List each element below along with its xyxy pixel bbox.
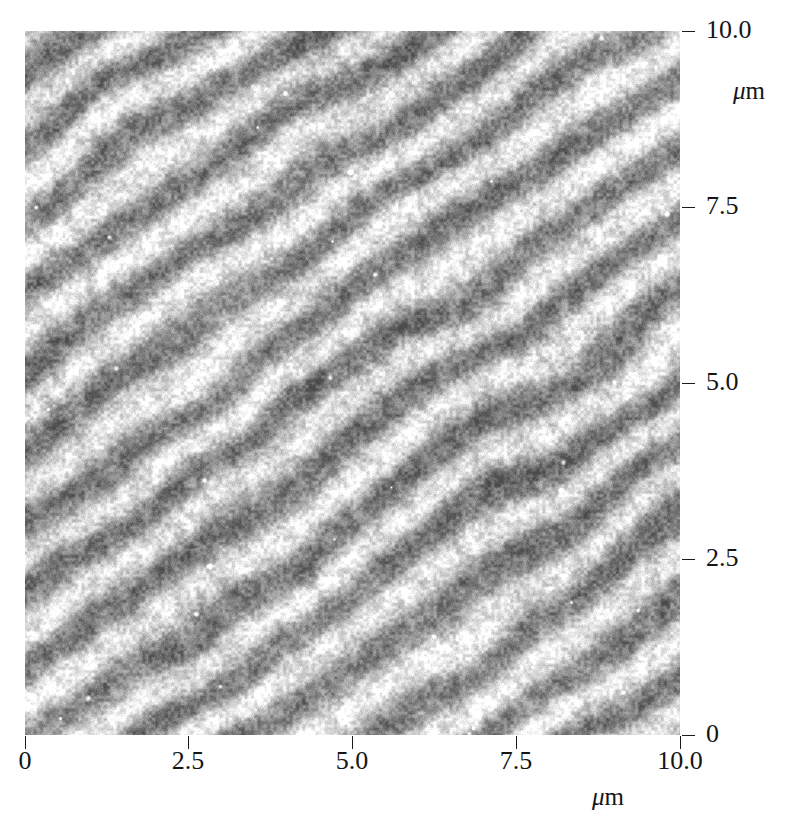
y-unit-mu: μ: [733, 77, 746, 104]
x-unit-m: m: [605, 783, 624, 810]
y-tick-label: 5.0: [706, 369, 739, 395]
x-axis-unit-label: μm: [592, 784, 624, 809]
scan-image-area: [25, 31, 680, 735]
y-unit-m: m: [746, 77, 765, 104]
micrograph-figure: 10.07.55.02.50 02.55.07.510.0 μm μm: [0, 0, 799, 824]
x-tick-label: 2.5: [143, 748, 233, 774]
x-tick-label: 10.0: [635, 748, 725, 774]
afm-scan-canvas: [25, 31, 680, 735]
y-axis-unit-label: μm: [733, 78, 765, 103]
y-tick-label: 0: [706, 721, 719, 747]
y-tick-mark: [682, 31, 695, 32]
x-tick-label: 0: [0, 748, 70, 774]
x-tick-label: 7.5: [471, 748, 561, 774]
y-tick-mark: [682, 735, 695, 736]
y-tick-label: 7.5: [706, 193, 739, 219]
x-tick-label: 5.0: [307, 748, 397, 774]
y-tick-mark: [682, 207, 695, 208]
y-tick-mark: [682, 559, 695, 560]
y-tick-label: 2.5: [706, 545, 739, 571]
y-tick-mark: [682, 383, 695, 384]
y-tick-label: 10.0: [706, 17, 752, 43]
x-unit-mu: μ: [592, 783, 605, 810]
